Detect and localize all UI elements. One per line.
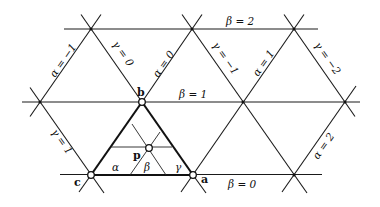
beta-1-label: β = 1: [178, 88, 207, 100]
gamma-neg2-label: γ = −2: [312, 39, 343, 77]
node-dot: [90, 28, 93, 31]
point-p-marker: [146, 145, 153, 152]
vertex-a-label: a: [201, 173, 208, 186]
point-p-label: p: [133, 149, 141, 162]
line-gamma-neg1: [182, 15, 307, 194]
gamma-neg1-label: γ = −1: [210, 39, 241, 76]
inner-alpha-label: α: [112, 161, 119, 173]
beta-2-label: β = 2: [225, 15, 255, 27]
vertex-b-marker: [139, 99, 146, 106]
beta-0-label: β = 0: [227, 178, 257, 190]
inner-beta-label: β: [143, 161, 150, 173]
node-dot: [293, 28, 296, 31]
node-dot: [191, 28, 194, 31]
alpha-0-label: α = 0: [150, 48, 177, 79]
inner-gamma-label: γ: [175, 161, 182, 173]
gamma-0-label: γ = 0: [110, 38, 136, 68]
node-dot: [293, 174, 296, 177]
vertex-c-label: c: [74, 176, 81, 189]
node-dot: [242, 101, 245, 104]
vertex-c-marker: [88, 172, 95, 179]
alpha-neg1-label: α = −1: [47, 41, 79, 79]
barycentric-lattice-diagram: b c a p α β γ β = 2 β = 1 β = 0 α = −1 α…: [0, 0, 380, 207]
vertex-a-marker: [190, 172, 197, 179]
node-dot: [39, 101, 42, 104]
vertex-b-label: b: [137, 86, 145, 99]
gamma-1-label: γ = 1: [49, 126, 75, 156]
node-dot: [344, 101, 347, 104]
